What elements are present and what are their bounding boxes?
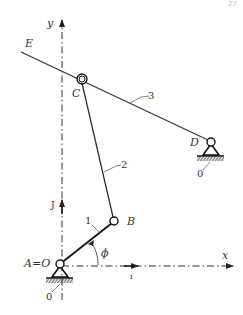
link-3: 3: [21, 52, 208, 140]
joint-d: [207, 138, 215, 146]
mechanism-figure: 27 y x J ı 3 2 1 ϕ: [0, 0, 243, 315]
link-2-label: 2: [121, 159, 127, 170]
point-e-label: E: [24, 37, 33, 50]
link-3-label: 3: [148, 90, 154, 101]
x-axis: x: [62, 249, 233, 266]
unit-vector-i: ı: [124, 266, 138, 281]
link-1-label: 1: [85, 215, 91, 226]
slider-joint-c: [77, 74, 87, 84]
unit-vector-j: J: [50, 200, 62, 214]
unit-j-label: J: [50, 200, 55, 210]
ground-support-d: 0: [197, 144, 224, 179]
ground-label-d: 0: [197, 168, 203, 179]
point-c-label: C: [72, 87, 81, 100]
page-number: 27: [228, 0, 237, 8]
ground-support-a: 0: [46, 266, 73, 302]
x-axis-label: x: [222, 249, 229, 262]
unit-i-label: ı: [130, 272, 133, 281]
ground-label-a: 0: [46, 291, 52, 302]
angle-phi-label: ϕ: [101, 247, 109, 260]
y-axis-label: y: [46, 17, 54, 30]
joint-b: [110, 217, 118, 225]
point-b-label: B: [126, 215, 135, 228]
point-d-label: D: [189, 136, 199, 149]
link-2: 2: [82, 83, 127, 217]
point-a-label: A=O: [23, 257, 50, 270]
joint-a: [56, 260, 64, 268]
angle-phi: ϕ: [88, 240, 109, 265]
